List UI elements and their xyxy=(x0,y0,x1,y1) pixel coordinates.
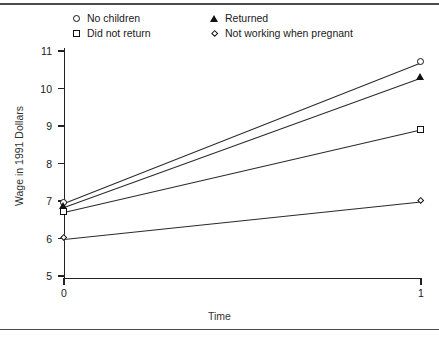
y-tick xyxy=(58,125,65,126)
x-axis-label: Time xyxy=(0,310,439,322)
y-tick-label: 8 xyxy=(0,159,52,169)
y-tick-label: 9 xyxy=(0,121,52,131)
y-axis-label: Wage in 1991 Dollars xyxy=(13,81,25,231)
y-tick-label: 6 xyxy=(0,234,52,244)
x-tick-label: 1 xyxy=(401,288,439,299)
y-tick xyxy=(58,275,65,276)
x-tick-label: 0 xyxy=(44,288,84,299)
x-tick xyxy=(63,278,64,285)
series-line-segment xyxy=(64,62,421,204)
y-tick-label: 11 xyxy=(0,46,52,56)
y-tick xyxy=(58,163,65,164)
y-tick-label: 10 xyxy=(0,84,52,94)
y-tick xyxy=(58,50,65,51)
series-line-segment xyxy=(64,201,421,239)
y-tick-label: 7 xyxy=(0,196,52,206)
y-tick xyxy=(58,88,65,89)
y-tick-label: 5 xyxy=(0,271,52,281)
x-tick xyxy=(420,278,421,285)
figure-container: No children Did not return Returned Not … xyxy=(0,0,439,338)
x-axis-line xyxy=(64,278,421,279)
plot-area: 567891011 01 Time Wage in 1991 Dollars xyxy=(0,0,439,338)
